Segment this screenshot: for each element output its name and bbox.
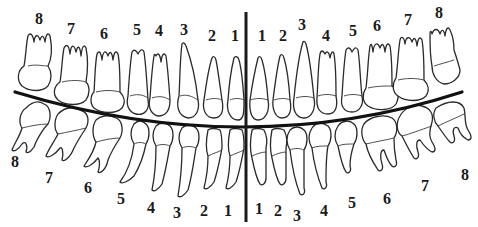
label-upper-right-7: 7 — [404, 12, 412, 28]
label-upper-right-8: 8 — [435, 5, 443, 21]
label-lower-left-6: 6 — [84, 180, 92, 196]
tooth-lower-left-6 — [84, 116, 122, 173]
tooth-upper-right-3 — [293, 41, 314, 118]
tooth-lower-left-1 — [226, 129, 244, 189]
label-lower-right-1: 1 — [255, 201, 263, 217]
tooth-lower-right-1 — [251, 129, 267, 185]
tooth-lower-left-4 — [152, 123, 173, 191]
tooth-upper-right-5 — [341, 48, 362, 112]
label-lower-right-3: 3 — [293, 208, 301, 224]
tooth-upper-right-7 — [393, 37, 428, 100]
label-upper-right-1: 1 — [258, 28, 266, 44]
tooth-lower-left-2 — [204, 129, 222, 189]
label-upper-right-5: 5 — [349, 23, 357, 39]
label-lower-right-4: 4 — [320, 203, 328, 219]
label-lower-right-5: 5 — [348, 195, 356, 211]
label-lower-left-1: 1 — [224, 203, 232, 219]
label-upper-left-1: 1 — [231, 28, 239, 44]
label-lower-left-4: 4 — [147, 200, 155, 216]
tooth-upper-right-4 — [317, 51, 337, 114]
tooth-lower-right-2 — [271, 129, 287, 185]
label-upper-left-2: 2 — [208, 28, 216, 44]
label-upper-left-4: 4 — [155, 23, 163, 39]
tooth-lower-left-3 — [178, 125, 199, 197]
label-lower-right-6: 6 — [383, 191, 391, 207]
tooth-upper-right-6 — [363, 44, 398, 110]
tooth-upper-left-6 — [91, 52, 124, 113]
label-lower-left-7: 7 — [45, 170, 53, 186]
label-lower-right-7: 7 — [421, 178, 429, 194]
tooth-upper-right-1 — [250, 57, 269, 120]
tooth-upper-right-8 — [430, 28, 460, 84]
label-upper-right-2: 2 — [279, 28, 287, 44]
label-lower-left-5: 5 — [117, 191, 125, 207]
tooth-lower-right-8 — [434, 102, 471, 143]
tooth-lower-left-5 — [120, 121, 149, 183]
tooth-upper-left-1 — [227, 57, 244, 120]
tooth-upper-left-5 — [127, 50, 148, 115]
label-upper-right-3: 3 — [298, 17, 306, 33]
label-upper-left-5: 5 — [133, 22, 141, 38]
tooth-upper-right-2 — [273, 55, 291, 118]
label-upper-left-8: 8 — [35, 11, 43, 27]
tooth-upper-left-8 — [18, 34, 51, 91]
tooth-lower-right-3 — [287, 127, 307, 195]
tooth-lower-right-4 — [309, 123, 331, 189]
label-upper-left-6: 6 — [100, 26, 108, 42]
tooth-lower-right-7 — [397, 105, 435, 158]
tooth-lower-left-8 — [12, 102, 50, 153]
label-upper-right-6: 6 — [373, 18, 381, 34]
label-lower-left-8: 8 — [11, 154, 19, 170]
tooth-upper-left-3 — [178, 43, 199, 118]
tooth-lower-right-5 — [335, 121, 357, 173]
label-lower-right-2: 2 — [274, 203, 282, 219]
label-upper-right-4: 4 — [322, 28, 330, 44]
label-lower-left-3: 3 — [173, 205, 181, 221]
tooth-upper-left-4 — [149, 54, 170, 116]
label-upper-left-7: 7 — [67, 21, 75, 37]
label-lower-right-8: 8 — [461, 167, 469, 183]
label-upper-left-3: 3 — [180, 22, 188, 38]
tooth-upper-left-7 — [54, 46, 89, 105]
upper-left-teeth — [18, 34, 244, 120]
label-lower-left-2: 2 — [200, 203, 208, 219]
tooth-upper-left-2 — [203, 57, 222, 118]
tooth-lower-left-7 — [46, 108, 88, 161]
